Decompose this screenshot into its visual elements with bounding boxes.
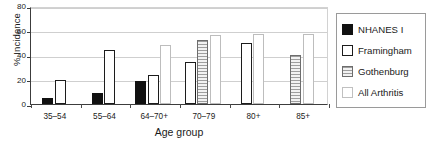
y-axis-tick-mark bbox=[27, 8, 31, 9]
legend-swatch-allarthritis-icon bbox=[342, 87, 353, 98]
legend-item-allarthritis[interactable]: All Arthritis bbox=[342, 82, 425, 103]
x-axis-tick-mark bbox=[130, 104, 131, 108]
x-axis-tick-mark bbox=[329, 104, 330, 108]
bar-nhanes-64_70+ bbox=[135, 81, 146, 104]
bar-gothenburg-70_79 bbox=[197, 40, 208, 104]
y-axis-tick-labels: 020406080 bbox=[10, 0, 26, 145]
x-axis-tick-mark bbox=[180, 104, 181, 108]
x-axis-tick-mark bbox=[230, 104, 231, 108]
gridline bbox=[31, 81, 327, 82]
y-axis-tick-mark bbox=[27, 81, 31, 82]
gridline bbox=[31, 32, 327, 33]
x-axis-tick-label: 55–64 bbox=[80, 112, 130, 122]
legend-item-gothenburg[interactable]: Gothenburg bbox=[342, 61, 425, 82]
y-axis-tick-label: 60 bbox=[12, 28, 26, 36]
y-axis-tick-label: 0 bbox=[12, 101, 26, 109]
y-axis-tick-label: 40 bbox=[12, 52, 26, 60]
bar-framingham-55_64 bbox=[104, 50, 115, 104]
bar-framingham-35_54 bbox=[55, 80, 66, 105]
legend-item-framingham[interactable]: Framingham bbox=[342, 40, 425, 61]
x-axis-title: Age group bbox=[30, 126, 328, 138]
y-axis-tick-mark bbox=[27, 57, 31, 58]
bar-gothenburg-85+ bbox=[290, 55, 301, 104]
legend: NHANES IFraminghamGothenburgAll Arthriti… bbox=[336, 13, 426, 108]
x-axis-tick-label: 85+ bbox=[278, 112, 328, 122]
x-axis-tick-label: 70–79 bbox=[179, 112, 229, 122]
bar-allarthritis-64_70+ bbox=[160, 45, 171, 104]
bar-framingham-80+ bbox=[241, 43, 252, 104]
x-axis-tick-labels: 35–5455–6464–70+70–7980+85+ bbox=[30, 112, 328, 124]
y-axis-tick-mark bbox=[27, 32, 31, 33]
y-axis-tick-label: 20 bbox=[12, 77, 26, 85]
legend-label: NHANES I bbox=[358, 25, 403, 35]
x-axis-tick-label: 80+ bbox=[229, 112, 279, 122]
gridline bbox=[31, 57, 327, 58]
legend-label: Gothenburg bbox=[358, 67, 409, 77]
legend-swatch-gothenburg-icon bbox=[342, 66, 353, 77]
x-axis-tick-mark bbox=[31, 104, 32, 108]
legend-label: Framingham bbox=[358, 46, 412, 56]
x-axis-tick-mark bbox=[81, 104, 82, 108]
bar-framingham-64_70+ bbox=[148, 75, 159, 104]
incidence-bar-chart: % Incidence 020406080 35–5455–6464–70+70… bbox=[0, 0, 427, 145]
bar-nhanes-55_64 bbox=[92, 93, 103, 104]
legend-item-nhanes[interactable]: NHANES I bbox=[342, 19, 425, 40]
plot-area bbox=[30, 7, 328, 105]
bar-framingham-70_79 bbox=[185, 62, 196, 104]
x-axis-tick-label: 35–54 bbox=[30, 112, 80, 122]
bar-allarthritis-85+ bbox=[303, 34, 314, 104]
x-axis-tick-label: 64–70+ bbox=[129, 112, 179, 122]
bar-allarthritis-80+ bbox=[253, 34, 264, 104]
legend-swatch-framingham-icon bbox=[342, 45, 353, 56]
gridline bbox=[31, 8, 327, 9]
bar-nhanes-35_54 bbox=[42, 98, 53, 104]
y-axis-tick-label: 80 bbox=[12, 3, 26, 11]
x-axis-tick-mark bbox=[279, 104, 280, 108]
legend-swatch-nhanes-icon bbox=[342, 24, 353, 35]
legend-label: All Arthritis bbox=[358, 88, 403, 98]
bar-allarthritis-70_79 bbox=[210, 35, 221, 104]
